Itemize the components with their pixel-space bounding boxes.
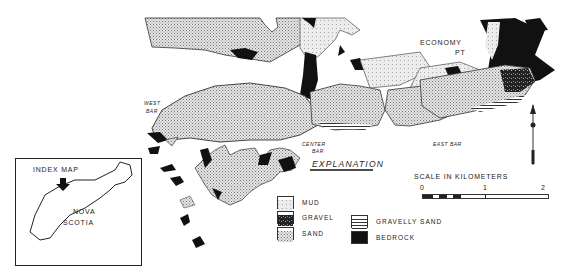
legend-item-mud: MUD xyxy=(277,196,320,209)
nova-label: NOVA xyxy=(73,208,96,215)
north-arrow-icon xyxy=(530,104,536,165)
scotia-label: SCOTIA xyxy=(63,219,94,226)
gravel-swatch xyxy=(277,211,294,224)
center-label: CENTER xyxy=(302,141,326,147)
economy-label: ECONOMY xyxy=(420,39,462,46)
east-bar-label: EAST BAR xyxy=(433,141,462,147)
west-bar xyxy=(147,83,318,146)
center-bar-label: BAR xyxy=(312,148,324,154)
pt-label: PT xyxy=(455,49,466,56)
west-label: WEST xyxy=(144,100,160,106)
west-bar-label: BAR xyxy=(146,108,158,114)
sand-swatch xyxy=(277,227,294,240)
scale-bar xyxy=(422,194,549,199)
legend-item-sand: SAND xyxy=(277,227,324,240)
legend-item-bedrock: BEDROCK xyxy=(351,231,415,244)
legend-item-gravel: GRAVEL xyxy=(277,211,334,224)
bedrock-swatch xyxy=(351,231,368,244)
index-map-inset: INDEX MAP NOVA SCOTIA xyxy=(15,158,142,266)
scale-title: SCALE IN KILOMETERS xyxy=(414,173,508,180)
legend-item-gravelly-sand: GRAVELLY SAND xyxy=(351,215,442,228)
top-landmass xyxy=(145,18,432,100)
scale-tick-2: 2 xyxy=(541,184,545,191)
inset-title: INDEX MAP xyxy=(33,166,79,173)
scale-tick-0: 0 xyxy=(420,184,424,191)
gravelly-sand-swatch xyxy=(351,215,368,228)
scale-tick-1: 1 xyxy=(483,184,487,191)
mud-swatch xyxy=(277,196,294,209)
explanation-heading: EXPLANATION xyxy=(312,159,384,169)
